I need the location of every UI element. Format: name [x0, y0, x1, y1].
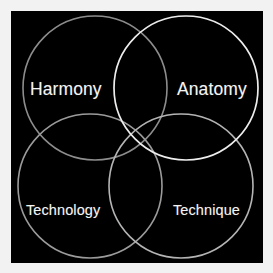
venn-diagram-panel: Harmony Anatomy Technology Technique	[11, 11, 263, 263]
venn-label-anatomy: Anatomy	[177, 81, 247, 99]
venn-label-technique: Technique	[173, 203, 240, 218]
venn-circle-technology[interactable]	[18, 114, 162, 258]
venn-label-technology: Technology	[26, 203, 100, 218]
venn-label-harmony: Harmony	[30, 81, 102, 99]
venn-circle-technique[interactable]	[109, 114, 253, 258]
venn-diagram-figure: Harmony Anatomy Technology Technique	[0, 0, 273, 273]
venn-circles-canvas	[11, 11, 263, 263]
